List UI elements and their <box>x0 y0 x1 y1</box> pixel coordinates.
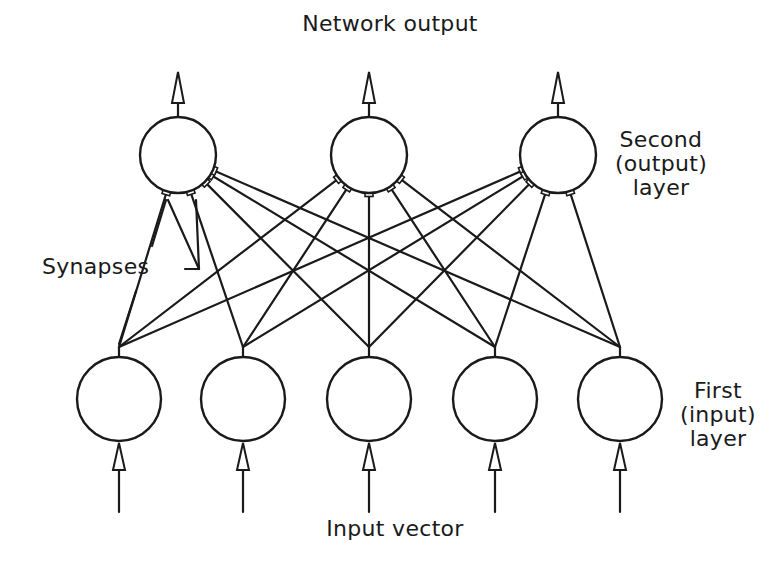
output-arrow-icon <box>172 72 184 103</box>
output-arrow-icon <box>552 72 564 103</box>
input-arrow-icon <box>113 443 125 470</box>
connection-line <box>570 192 620 347</box>
output-neuron <box>140 117 216 193</box>
input-vector-label: Input vector <box>300 517 490 541</box>
synapse-pointer <box>168 200 199 269</box>
input-neuron <box>201 357 285 441</box>
input-neuron <box>578 357 662 441</box>
connection-line <box>119 179 338 347</box>
input-arrow-icon <box>363 443 375 470</box>
input-arrow-icon <box>237 443 249 470</box>
connection-line <box>119 171 522 347</box>
input-layer-label: First (input) layer <box>668 379 768 451</box>
synapses-label: Synapses <box>42 255 149 279</box>
connection-line <box>206 183 369 347</box>
connection-line <box>369 183 531 347</box>
input-neuron <box>453 357 537 441</box>
connection-line <box>214 171 620 347</box>
input-arrow-icon <box>489 443 501 470</box>
output-layer-label: Second (output) layer <box>611 128 711 200</box>
output-neuron <box>520 117 596 193</box>
synapse-pointer <box>196 200 199 269</box>
input-neuron <box>327 357 411 441</box>
network-output-label: Network output <box>300 12 480 36</box>
network-graph <box>0 0 781 577</box>
neural-network-diagram: Network output Second (output) layer Syn… <box>0 0 781 577</box>
input-arrow-icon <box>614 443 626 470</box>
synapse-pointer <box>152 200 166 246</box>
input-neuron <box>77 357 161 441</box>
output-neuron <box>331 117 407 193</box>
output-arrow-icon <box>363 72 375 103</box>
